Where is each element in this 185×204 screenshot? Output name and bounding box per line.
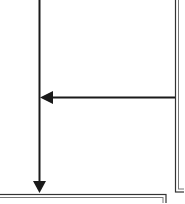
right-box <box>176 0 185 192</box>
arrowhead-down-icon <box>33 181 46 193</box>
diagram-canvas <box>0 0 184 203</box>
flowchart-svg <box>0 0 184 203</box>
bottom-box <box>0 195 166 204</box>
left-arrow-connector <box>40 91 175 104</box>
arrowhead-left-icon <box>40 91 53 104</box>
